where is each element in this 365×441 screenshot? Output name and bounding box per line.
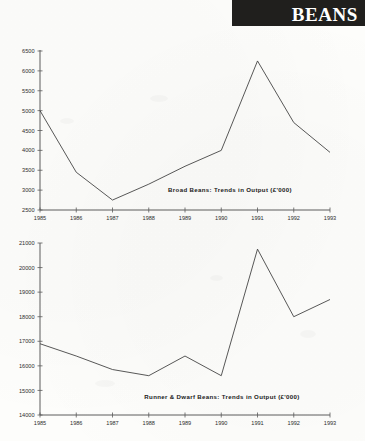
y-tick-label: 4500 (22, 128, 34, 134)
y-tick-label: 19000 (19, 289, 35, 295)
x-tick-label: 1987 (106, 215, 118, 221)
y-tick-label: 3000 (22, 187, 34, 193)
x-tick-label: 1985 (34, 420, 46, 426)
page-canvas: BEANS 2500300035004000450050005500600065… (0, 0, 365, 441)
page-title: BEANS (292, 4, 358, 25)
y-tick-label: 2500 (22, 207, 34, 213)
x-tick-label: 1985 (34, 215, 46, 221)
y-tick-label: 5500 (22, 88, 34, 94)
y-tick-label: 6000 (22, 68, 34, 74)
y-tick-label: 4000 (22, 147, 34, 153)
y-tick-label: 20000 (19, 265, 35, 271)
y-tick-label: 18000 (19, 314, 35, 320)
x-tick-label: 1987 (106, 420, 118, 426)
x-tick-label: 1991 (251, 420, 263, 426)
chart-broad-beans: 250030003500400045005000550060006500 198… (0, 40, 365, 225)
y-tick-label: 14000 (19, 412, 35, 418)
broad-beans-plot: 250030003500400045005000550060006500 198… (0, 40, 365, 225)
y-tick-label: 15000 (19, 388, 35, 394)
x-tick-label: 1988 (143, 215, 155, 221)
y-tick-label: 3500 (22, 167, 34, 173)
x-tick-group: 198519861987198819891990199119921993 (34, 413, 336, 427)
x-tick-label: 1988 (143, 420, 155, 426)
x-tick-label: 1986 (70, 215, 82, 221)
x-tick-label: 1993 (324, 215, 336, 221)
x-tick-label: 1992 (288, 215, 300, 221)
y-tick-label: 6500 (22, 48, 34, 54)
x-tick-label: 1986 (70, 420, 82, 426)
chart-caption: Broad Beans: Trends in Output (£'000) (168, 186, 292, 193)
x-tick-group: 198519861987198819891990199119921993 (34, 208, 336, 222)
x-tick-label: 1992 (288, 420, 300, 426)
x-tick-label: 1993 (324, 420, 336, 426)
x-tick-label: 1991 (251, 215, 263, 221)
x-tick-label: 1989 (179, 215, 191, 221)
y-tick-group: 1400015000160001700018000190002000021000 (19, 240, 43, 418)
y-tick-group: 250030003500400045005000550060006500 (22, 48, 42, 213)
x-tick-label: 1989 (179, 420, 191, 426)
y-tick-label: 5000 (22, 108, 34, 114)
header-banner: BEANS (232, 0, 365, 26)
y-tick-label: 17000 (19, 338, 35, 344)
chart-caption: Runner & Dwarf Beans: Trends in Output (… (144, 393, 299, 400)
data-series-line (40, 249, 330, 376)
chart-runner-dwarf-beans: 1400015000160001700018000190002000021000… (0, 233, 365, 438)
y-tick-label: 21000 (19, 240, 35, 246)
y-tick-label: 16000 (19, 363, 35, 369)
runner-dwarf-beans-plot: 1400015000160001700018000190002000021000… (0, 233, 365, 438)
data-series-line (40, 61, 330, 200)
x-tick-label: 1990 (215, 215, 227, 221)
x-tick-label: 1990 (215, 420, 227, 426)
